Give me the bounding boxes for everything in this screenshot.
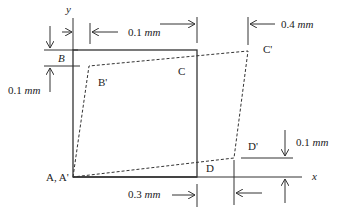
deformed-shape: [73, 51, 248, 177]
dim-bottom-unit: mm: [145, 188, 161, 200]
point-b-label: B: [58, 53, 65, 64]
dim-left-unit: mm: [25, 84, 41, 96]
dim-top-right-label: 0.4 mm: [281, 19, 313, 30]
dim-top-label: 0.1 mm: [128, 27, 160, 38]
dim-right-value: 0.1: [296, 136, 310, 148]
dim-left-label: 0.1 mm: [8, 85, 40, 96]
dim-right-label: 0.1 mm: [296, 137, 328, 148]
diagram-graphics: [0, 0, 342, 220]
dim-right-unit: mm: [313, 136, 329, 148]
point-d-prime-label: D': [248, 141, 258, 152]
dim-top-right-unit: mm: [298, 18, 314, 30]
dim-top-right-value: 0.4: [281, 18, 295, 30]
dim-left-value: 0.1: [8, 84, 22, 96]
y-axis-label: y: [66, 4, 71, 15]
dim-top-unit: mm: [145, 26, 161, 38]
point-a-label: A, A': [46, 172, 69, 183]
shear-deformation-diagram: y x B B' C C' A, A' D D' 0.1 mm 0.4 mm 0…: [0, 0, 342, 220]
x-axis-label: x: [312, 171, 317, 182]
dim-bottom-label: 0.3 mm: [128, 189, 160, 200]
dim-top-value: 0.1: [128, 26, 142, 38]
point-c-label: C: [178, 66, 185, 77]
point-c-prime-label: C': [263, 44, 272, 55]
point-b-prime-label: B': [98, 77, 107, 88]
point-d-label: D: [206, 163, 214, 174]
dim-bottom-value: 0.3: [128, 188, 142, 200]
